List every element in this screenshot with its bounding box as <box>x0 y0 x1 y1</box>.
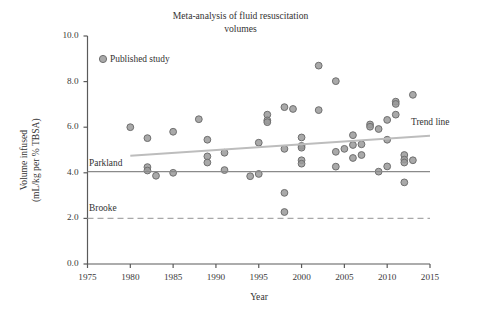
data-point <box>170 169 177 176</box>
parkland-reference-label: Parkland <box>89 158 122 168</box>
data-point <box>341 145 348 152</box>
data-point <box>264 119 271 126</box>
plot-canvas <box>0 0 481 316</box>
data-point <box>350 132 357 139</box>
x-tick-label: 1990 <box>196 272 236 282</box>
data-point <box>281 189 288 196</box>
data-point <box>358 152 365 159</box>
y-tick-label: 4.0 <box>49 167 79 177</box>
x-tick-label: 1985 <box>153 272 193 282</box>
y-tick-label: 6.0 <box>49 121 79 131</box>
data-point <box>367 123 374 130</box>
x-tick-label: 2015 <box>410 272 450 282</box>
y-axis-title-line1: Volume infused <box>18 130 29 190</box>
y-tick-label: 8.0 <box>49 76 79 86</box>
data-point <box>221 167 228 174</box>
y-axis-title: Volume infused(mL/kg per % TBSA) <box>18 70 42 250</box>
brooke-reference-label: Brooke <box>89 203 117 213</box>
chart-title-line1: Meta-analysis of fluid resuscitation <box>173 10 309 21</box>
data-point <box>392 111 399 118</box>
data-point <box>281 209 288 216</box>
data-point <box>247 173 254 180</box>
data-point <box>375 126 382 133</box>
data-point <box>401 179 408 186</box>
x-tick-label: 1995 <box>239 272 279 282</box>
data-point <box>384 163 391 170</box>
data-point <box>204 136 211 143</box>
data-point <box>315 62 322 69</box>
y-tick-label: 0.0 <box>49 258 79 268</box>
x-tick-label: 2000 <box>282 272 322 282</box>
data-point <box>290 106 297 113</box>
data-point <box>204 159 211 166</box>
data-point <box>255 139 262 146</box>
data-point <box>358 141 365 148</box>
data-point <box>332 148 339 155</box>
data-point <box>315 107 322 114</box>
trend-line <box>130 136 430 156</box>
y-tick-label: 2.0 <box>49 212 79 222</box>
chart-title-line2: volumes <box>224 23 257 34</box>
x-tick-label: 1975 <box>68 272 108 282</box>
meta-analysis-scatter-chart: Meta-analysis of fluid resuscitationvolu… <box>0 0 481 316</box>
y-axis-title-line2: (mL/kg per % TBSA) <box>30 118 41 202</box>
x-tick-label: 1980 <box>110 272 150 282</box>
legend-label-published-study: Published study <box>110 54 170 64</box>
data-point <box>195 116 202 123</box>
data-point <box>144 135 151 142</box>
data-point <box>384 117 391 124</box>
data-point <box>332 163 339 170</box>
data-point <box>298 160 305 167</box>
data-point <box>281 104 288 111</box>
data-point <box>350 155 357 162</box>
data-point <box>332 78 339 85</box>
data-point <box>392 101 399 108</box>
trend-line-label: Trend line <box>411 117 449 127</box>
y-tick-label: 10.0 <box>49 30 79 40</box>
x-tick-label: 2005 <box>324 272 364 282</box>
data-point <box>127 124 134 131</box>
data-point <box>409 157 416 164</box>
data-point <box>170 128 177 135</box>
legend-marker-published-study <box>99 55 106 62</box>
x-tick-label: 2010 <box>367 272 407 282</box>
x-axis-title: Year <box>87 291 431 302</box>
data-point <box>153 172 160 179</box>
data-point <box>409 91 416 98</box>
data-point <box>350 142 357 149</box>
data-point <box>298 134 305 141</box>
data-point <box>144 167 151 174</box>
data-point <box>401 159 408 166</box>
